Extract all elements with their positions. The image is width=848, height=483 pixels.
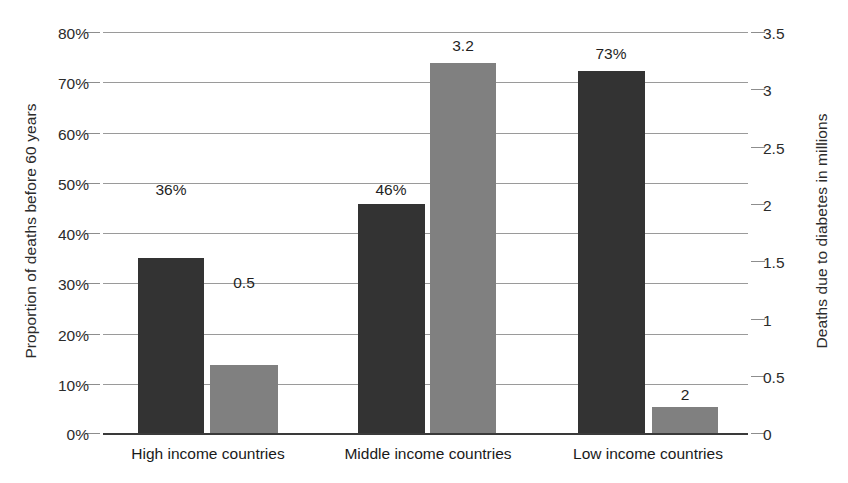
y-tick-left-50: 50% (27, 177, 89, 193)
y-tick-left-70: 70% (27, 76, 89, 92)
bar-label-middle-income-proportion: 46% (346, 182, 436, 198)
y-tick-right-2_5: 2.5 (763, 141, 823, 157)
y-tick-right-1: 1 (763, 313, 823, 329)
y-tick-right-2: 2 (763, 198, 823, 214)
bar-label-high-income-proportion: 36% (126, 182, 216, 198)
bar-label-high-income-deaths: 0.5 (199, 275, 289, 291)
bar-chart: Proportion of deaths before 60 years Dea… (0, 0, 848, 483)
y-tick-right-0_5: 0.5 (763, 370, 823, 386)
x-category-label-high-income: High income countries (98, 446, 318, 462)
gridline-70 (103, 82, 748, 83)
bar-label-middle-income-deaths: 3.2 (418, 38, 508, 54)
y-tick-right-3: 3 (763, 83, 823, 99)
x-category-label-middle-income: Middle income countries (318, 446, 538, 462)
bar-label-low-income-proportion: 73% (566, 46, 656, 62)
bar-middle-income-proportion[interactable] (358, 204, 425, 433)
bar-high-income-proportion[interactable] (138, 258, 204, 433)
y-tick-right-0: 0 (763, 427, 823, 443)
y-tick-right-1_5: 1.5 (763, 255, 823, 271)
y-tick-left-10: 10% (27, 378, 89, 394)
y-tick-left-0: 0% (27, 427, 89, 443)
axis-baseline (103, 433, 748, 435)
gridline-40 (103, 233, 748, 234)
bar-middle-income-deaths[interactable] (430, 63, 496, 433)
bar-label-low-income-deaths: 2 (640, 387, 730, 403)
y-tick-left-60: 60% (27, 127, 89, 143)
bar-high-income-deaths[interactable] (210, 365, 278, 433)
y-tick-left-40: 40% (27, 227, 89, 243)
plot-area: 80% 70% 60% 50% 40% 30% 20% 10% 0% 3.5 3… (103, 32, 748, 434)
bar-low-income-proportion[interactable] (578, 71, 645, 433)
gridline-80 (103, 32, 748, 33)
gridline-60 (103, 133, 748, 134)
y-tick-left-30: 30% (27, 277, 89, 293)
x-category-label-low-income: Low income countries (538, 446, 758, 462)
y-tick-left-80: 80% (27, 26, 89, 42)
bar-low-income-deaths[interactable] (652, 407, 718, 433)
y-tick-right-3_5: 3.5 (763, 26, 823, 42)
y-tick-left-20: 20% (27, 328, 89, 344)
